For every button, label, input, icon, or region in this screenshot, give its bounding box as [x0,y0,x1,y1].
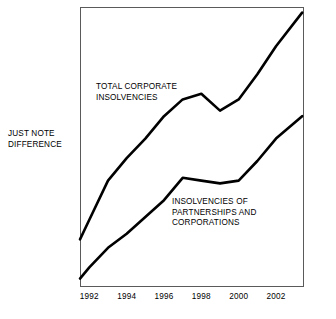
x-tick-label-2000: 2000 [229,292,248,301]
series-lines [80,7,304,287]
label-insolvencies-partnerships-corporations: INSOLVENCIES OF PARTNERSHIPS AND CORPORA… [172,197,256,229]
x-tick-label-1996: 1996 [154,292,173,301]
chart-side-note: JUST NOTE DIFFERENCE [8,128,78,150]
label-total-corporate-insolvencies: TOTAL CORPORATE INSOLVENCIES [96,82,177,103]
x-axis-tick-labels: 199219941996199820002002 [80,292,304,306]
insolvencies-line-chart-figure: JUST NOTE DIFFERENCE TOTAL CORPORATE INS… [0,0,336,319]
x-tick-label-1994: 1994 [117,292,136,301]
x-tick-label-2002: 2002 [266,292,285,301]
x-tick-label-1998: 1998 [192,292,211,301]
x-tick-label-1992: 1992 [80,292,99,301]
